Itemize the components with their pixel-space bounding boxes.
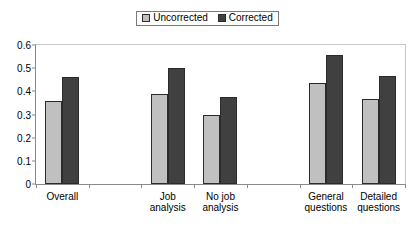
bar-pair [362,45,396,184]
bar-uncorrected[interactable] [203,115,220,185]
bar-corrected[interactable] [168,68,185,184]
x-axis-label: No job analysis [186,191,256,213]
bar-group [247,45,300,184]
bar-group [89,45,142,184]
x-axis-tick-mark [194,184,195,188]
legend-swatch-corrected [218,14,226,22]
bar-pair [203,45,237,184]
legend-entry-uncorrected: Uncorrected [142,13,207,23]
x-axis-tick-mark [300,184,301,188]
bar-group [352,45,405,184]
chart-legend: Uncorrected Corrected [0,11,415,26]
legend-entry-corrected: Corrected [218,13,273,23]
bar-group [300,45,353,184]
x-axis-tick-mark [89,184,90,188]
x-axis-tick-mark [352,184,353,188]
legend-label-corrected: Corrected [229,13,273,23]
x-axis-tick-mark [36,184,37,188]
bar-uncorrected[interactable] [362,99,379,184]
bar-group [194,45,247,184]
x-axis-tick-mark [141,184,142,188]
plot-area: 00.10.20.30.40.50.6 OverallJob analysisN… [35,44,406,185]
bar-pair [45,45,79,184]
bar-uncorrected[interactable] [45,101,62,184]
bar-pair [151,45,185,184]
bar-corrected[interactable] [326,55,343,184]
legend-label-uncorrected: Uncorrected [153,13,207,23]
bar-uncorrected[interactable] [309,83,326,184]
bar-corrected[interactable] [220,97,237,184]
legend-box: Uncorrected Corrected [136,11,278,26]
x-axis-label: Detailed questions [344,191,414,213]
bar-uncorrected[interactable] [151,94,168,184]
bar-chart: Uncorrected Corrected 00.10.20.30.40.50.… [0,0,415,226]
bar-corrected[interactable] [62,77,79,184]
x-axis-tick-mark [247,184,248,188]
x-axis-label: Overall [27,191,97,202]
bars-layer [36,45,405,184]
legend-swatch-uncorrected [142,14,150,22]
bar-group [141,45,194,184]
bar-pair [309,45,343,184]
bar-corrected[interactable] [379,76,396,184]
bar-group [36,45,89,184]
x-axis-tick-mark [405,184,406,188]
